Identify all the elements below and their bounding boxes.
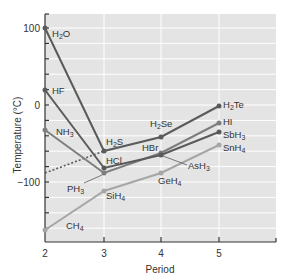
y-tick-minus-100: −100	[17, 177, 40, 188]
label-hi: HI	[223, 116, 233, 127]
label-h2te: H2Te	[223, 99, 244, 111]
label-h2se: H2Se	[150, 118, 172, 130]
y-tick-0: 0	[34, 100, 40, 111]
boiling-point-chart: 100 0 −100 2 3 4 5 Period Temperature (°…	[0, 0, 285, 280]
x-tick-4: 4	[158, 248, 164, 259]
label-hf: HF	[52, 85, 65, 96]
label-hcl: HCl	[106, 155, 122, 166]
x-tick-3: 3	[101, 248, 107, 259]
y-axis-title: Temperature (°C)	[12, 97, 23, 174]
x-tick-2: 2	[42, 248, 48, 259]
label-hbr: HBr	[142, 142, 158, 153]
x-axis-title: Period	[146, 264, 175, 275]
y-tick-100: 100	[23, 23, 40, 34]
x-tick-5: 5	[216, 248, 222, 259]
